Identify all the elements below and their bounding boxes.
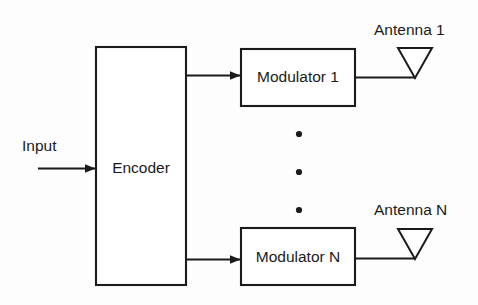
antenna-n-label: Antenna N — [374, 202, 447, 218]
vertical-ellipsis-icon — [296, 131, 302, 213]
antenna-n-icon — [398, 229, 432, 259]
antenna-1-label: Antenna 1 — [374, 22, 445, 38]
modulator-n-label: Modulator N — [241, 249, 355, 265]
diagram-graphics — [0, 0, 478, 305]
encoder-label: Encoder — [96, 160, 186, 176]
modulator-1-label: Modulator 1 — [241, 69, 355, 85]
input-label: Input — [22, 138, 56, 154]
diagram-canvas: Input Encoder Modulator 1 Modulator N An… — [0, 0, 478, 305]
antenna-1-icon — [398, 48, 432, 78]
